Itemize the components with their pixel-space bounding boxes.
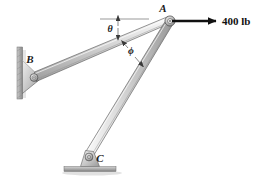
label-joint-A: A <box>158 2 166 14</box>
label-angle-phi: ϕ <box>128 45 134 56</box>
ground-plate <box>64 167 116 172</box>
pin-C-center <box>88 156 89 157</box>
shadows <box>22 50 122 176</box>
member-AC-highlight <box>87 24 166 152</box>
member-AC-body <box>85 23 172 157</box>
statics-figure: A B C θ ϕ 400 lb <box>0 0 263 186</box>
label-joint-C: C <box>96 152 104 164</box>
pin-joint-C <box>85 153 93 161</box>
label-force-magnitude: 400 lb <box>222 15 250 27</box>
label-angle-theta: θ <box>107 23 113 34</box>
pin-A-center <box>169 20 171 22</box>
pin-B-center <box>33 77 34 78</box>
frame-diagram: A B C θ ϕ 400 lb <box>0 0 263 186</box>
pin-joint-B <box>30 74 38 82</box>
labels: A B C θ ϕ 400 lb <box>25 2 250 164</box>
member-AC <box>85 23 172 157</box>
label-joint-B: B <box>25 53 33 65</box>
